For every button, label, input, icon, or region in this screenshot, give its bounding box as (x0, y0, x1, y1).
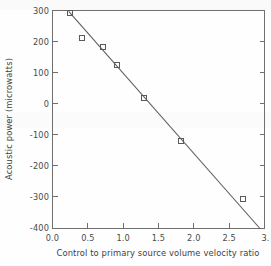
x-tick-label: 2.0 (187, 233, 200, 243)
x-tick-label: 1.5 (152, 233, 165, 243)
y-tick-label: 100 (33, 68, 49, 78)
y-tick-label: -300 (30, 192, 49, 202)
x-tick-label: 1.0 (116, 233, 129, 243)
y-tick-label: 300 (33, 6, 49, 16)
y-tick-marks (53, 11, 265, 229)
y-axis-title: Acoustic power (microwatts) (4, 58, 14, 180)
linear-fit-line (69, 11, 260, 228)
y-tick-label: 200 (33, 37, 49, 47)
x-axis-title: Control to primary source volume velocit… (56, 248, 259, 258)
y-tick-labels: 300 200 100 0 -100 -200 -300 -400 (30, 6, 49, 234)
y-tick-label: 0 (44, 99, 49, 109)
data-point (240, 197, 245, 202)
x-tick-marks (53, 223, 265, 228)
y-tick-label: -200 (30, 161, 49, 171)
plot-frame (53, 11, 265, 229)
y-tick-label: -100 (30, 130, 49, 140)
x-tick-label: 2.5 (222, 233, 235, 243)
figure-container: 300 200 100 0 -100 -200 -300 -400 0.0 0.… (0, 0, 271, 266)
x-tick-labels: 0.0 0.5 1.0 1.5 2.0 2.5 3. (46, 233, 270, 243)
scatter-plot: 300 200 100 0 -100 -200 -300 -400 0.0 0.… (0, 0, 271, 266)
x-tick-label: 0.0 (46, 233, 59, 243)
x-tick-label: 0.5 (81, 233, 94, 243)
x-tick-label: 3. (261, 233, 269, 243)
data-point (79, 35, 84, 40)
